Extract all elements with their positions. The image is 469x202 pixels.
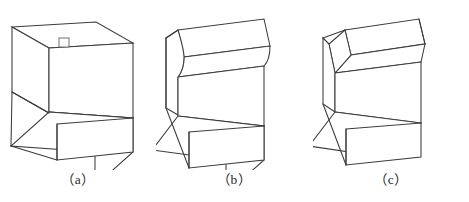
figure-caption-a: （a）	[0, 168, 156, 188]
lower-front-rect-b	[189, 126, 264, 168]
figure-caption-c: （c）	[313, 168, 469, 188]
figure-panel-b: （b）	[156, 0, 312, 202]
figure-panel-a: （a）	[0, 0, 156, 202]
isometric-block-c	[313, 0, 469, 170]
lower-box-front-a	[57, 118, 133, 160]
square-detail-marker-a	[59, 38, 69, 47]
figure-panel-c: （c）	[313, 0, 469, 202]
isometric-block-b	[156, 0, 312, 170]
base-left-edge-a	[11, 92, 12, 146]
lower-box-front-c	[346, 123, 421, 165]
isometric-block-a	[0, 0, 156, 170]
figure-caption-b: （b）	[156, 168, 312, 188]
riser-face-a	[49, 43, 133, 118]
figure-sheet: （a） （b）	[0, 0, 469, 202]
